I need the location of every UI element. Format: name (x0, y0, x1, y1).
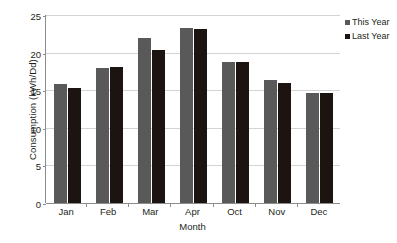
bar (236, 62, 249, 203)
bar-group (172, 15, 214, 203)
y-tick-label: 5 (36, 161, 41, 172)
bar-group (214, 15, 256, 203)
bar (54, 84, 67, 203)
bar (152, 50, 165, 203)
x-tick-label: Dec (298, 206, 340, 217)
bar-group (256, 15, 298, 203)
x-axis-labels: JanFebMarAprOctNovDec (45, 206, 340, 217)
legend-label: This Year (352, 17, 390, 27)
bar-group (88, 15, 130, 203)
bar (96, 68, 109, 203)
legend-entry[interactable]: This Year (345, 17, 390, 27)
bar (68, 88, 81, 203)
bar-groups (46, 15, 340, 203)
legend-entry[interactable]: Last Year (345, 31, 390, 41)
bar-group (130, 15, 172, 203)
bar (306, 93, 319, 203)
plot-area: 0510152025 (45, 15, 340, 203)
bar (180, 28, 193, 203)
bar-group (46, 15, 88, 203)
legend-swatch-icon (345, 34, 350, 39)
bar (278, 83, 291, 203)
x-tick-label: Jan (45, 206, 87, 217)
bar (222, 62, 235, 203)
legend-label: Last Year (352, 31, 390, 41)
y-tick-label: 15 (30, 86, 41, 97)
y-tick-label: 20 (30, 48, 41, 59)
x-axis-title: Month (45, 221, 340, 232)
bar (320, 93, 333, 203)
chart-legend: This YearLast Year (345, 17, 390, 41)
bar (138, 38, 151, 203)
x-tick-label: Mar (129, 206, 171, 217)
x-tick-label: Oct (214, 206, 256, 217)
x-tick-label: Feb (87, 206, 129, 217)
x-tick-label: Apr (171, 206, 213, 217)
bar (194, 29, 207, 203)
bar (110, 67, 123, 203)
y-tick-label: 10 (30, 123, 41, 134)
bar-group (298, 15, 340, 203)
y-tick-label: 0 (36, 199, 41, 210)
bar (264, 80, 277, 203)
legend-swatch-icon (345, 20, 350, 25)
bar-chart: Consumption (kWh/Dd) 0510152025 JanFebMa… (0, 0, 397, 243)
y-tick-label: 25 (30, 11, 41, 22)
x-tick-label: Nov (256, 206, 298, 217)
